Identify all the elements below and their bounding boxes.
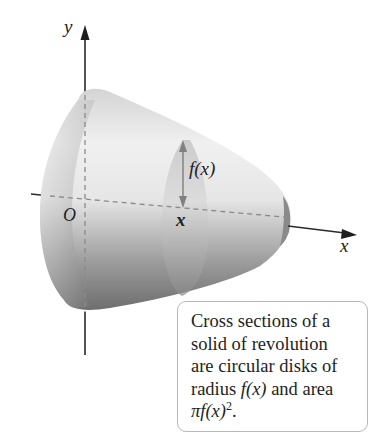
callout-line-5: πf(x)2. [191, 400, 359, 423]
y-axis-arrow-icon [81, 25, 90, 40]
callout-line-2: solid of revolution [191, 333, 359, 356]
callout-line-3: are circular disks of [191, 355, 359, 378]
x-axis-line [288, 226, 345, 233]
callout-line-5-suffix: . [232, 401, 237, 421]
radius-label: f(x) [189, 158, 215, 180]
callout-radius-math: f(x) [241, 379, 267, 399]
x-axis-label: x [340, 235, 348, 257]
callout-line-1: Cross sections of a [191, 310, 359, 333]
cross-section-position-label: x [176, 209, 186, 231]
explanation-callout: Cross sections of a solid of revolution … [177, 301, 368, 432]
callout-line-4: radius f(x) and area [191, 378, 359, 401]
callout-line-4-suffix: and area [267, 379, 334, 399]
origin-label: O [63, 205, 76, 226]
solid-of-revolution-figure: y x O x f(x) Cross sections of a solid o… [0, 0, 392, 448]
y-axis-label: y [64, 16, 72, 38]
callout-area-math: πf(x) [191, 401, 226, 421]
callout-line-4-prefix: radius [191, 379, 241, 399]
